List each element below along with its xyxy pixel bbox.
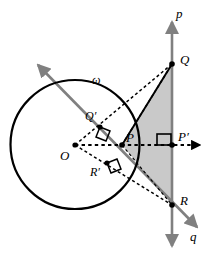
label-line-q: q [190, 230, 197, 243]
point-Q-prime [97, 124, 102, 129]
label-point-O: O [60, 149, 69, 162]
label-line-p: p [176, 7, 183, 20]
point-R-prime [104, 160, 109, 165]
point-R [169, 202, 175, 208]
geometry-figure-canvas: p q ω O P P′ Q Q′ R R′ [0, 0, 213, 260]
point-P [119, 142, 125, 148]
label-point-Q-prime: Q′ [85, 110, 96, 122]
label-point-R-prime: R′ [90, 166, 100, 178]
point-P-prime [169, 142, 175, 148]
label-point-P-prime: P′ [178, 130, 189, 143]
label-point-P: P [126, 131, 134, 144]
label-point-R: R [180, 194, 188, 207]
label-circle-omega: ω [92, 74, 100, 86]
point-Q [169, 61, 175, 67]
label-point-Q: Q [180, 53, 189, 66]
right-angle-mark-qprime [96, 127, 110, 141]
point-O [72, 142, 77, 147]
